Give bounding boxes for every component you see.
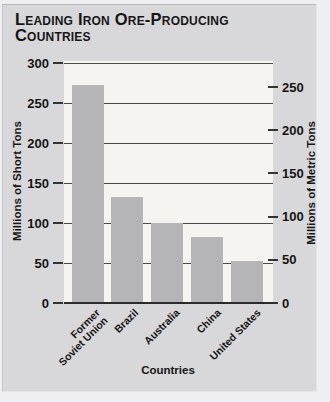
x-label-australia: Australia <box>142 307 181 346</box>
left-tick-label-50: 50 <box>15 257 49 270</box>
left-tick-150 <box>53 182 63 184</box>
left-tick-label-150: 150 <box>15 177 49 190</box>
left-tick-50 <box>53 262 63 264</box>
x-axis-line <box>64 302 273 304</box>
x-label-brazil: Brazil <box>113 307 141 335</box>
x-label-former-soviet-union: Former Soviet Union <box>49 307 109 367</box>
chart-panel: Leading Iron Ore-Producing Countries Mil… <box>2 4 317 392</box>
bar-former-soviet-union <box>72 85 104 303</box>
left-tick-300 <box>53 62 63 64</box>
right-tick-250 <box>268 86 278 88</box>
right-tick-50 <box>268 259 278 261</box>
bar-united-states <box>231 261 263 303</box>
right-tick-label-200: 200 <box>282 124 318 137</box>
left-tick-label-200: 200 <box>15 137 49 150</box>
gridline-300 <box>64 63 273 64</box>
left-tick-label-100: 100 <box>15 217 49 230</box>
bar-australia <box>151 223 183 303</box>
right-tick-label-50: 50 <box>282 253 318 266</box>
right-tick-100 <box>268 216 278 218</box>
bar-china <box>191 237 223 303</box>
bar-brazil <box>111 197 143 303</box>
right-tick-label-250: 250 <box>282 81 318 94</box>
left-tick-label-250: 250 <box>15 97 49 110</box>
left-tick-100 <box>53 222 63 224</box>
left-tick-label-300: 300 <box>15 57 49 70</box>
right-axis-title: Millions of Metric Tons <box>305 121 317 245</box>
x-label-china: China <box>194 307 222 335</box>
right-tick-label-0: 0 <box>282 297 318 310</box>
x-axis-title: Countries <box>63 364 273 376</box>
right-tick-label-100: 100 <box>282 210 318 223</box>
left-tick-label-0: 0 <box>15 297 49 310</box>
left-tick-0 <box>53 302 63 304</box>
right-tick-150 <box>268 172 278 174</box>
chart-title: Leading Iron Ore-Producing Countries <box>15 11 303 43</box>
plot-area <box>64 61 273 303</box>
right-tick-200 <box>268 129 278 131</box>
right-tick-label-150: 150 <box>282 167 318 180</box>
left-tick-200 <box>53 142 63 144</box>
left-tick-250 <box>53 102 63 104</box>
